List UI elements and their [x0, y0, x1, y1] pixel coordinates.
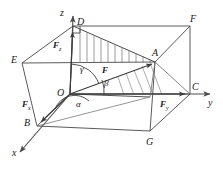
vertex-D-label: D: [77, 17, 84, 27]
force-diagram-figure: z y x D F E A C O B G Fz Fx Fy F γ β α: [0, 0, 223, 171]
vertex-C-label: C: [192, 82, 199, 92]
y-axis-label: y: [208, 98, 212, 108]
angle-beta-label: β: [104, 79, 108, 88]
angle-gamma-label: γ: [80, 65, 84, 74]
vertex-O-label: O: [57, 88, 64, 98]
diagram-canvas: [0, 0, 223, 171]
force-z-subscript: z: [59, 46, 61, 52]
force-resultant-label: F: [102, 66, 108, 77]
hatched-plane-DA: [73, 26, 155, 63]
vertex-F-top-label: F: [190, 14, 196, 24]
vertex-E-label: E: [11, 55, 17, 65]
force-x-subscript: x: [28, 105, 31, 111]
z-axis-label: z: [60, 8, 64, 18]
x-axis-label: x: [12, 148, 16, 158]
force-resultant-symbol: F: [102, 65, 108, 75]
force-y-subscript: y: [166, 105, 169, 111]
force-y-component-label: Fy: [160, 100, 169, 111]
coordinate-axes: [20, 16, 210, 152]
angle-alpha-label: α: [76, 100, 81, 109]
force-x-component-label: Fx: [22, 100, 31, 111]
force-z-component-label: Fz: [53, 41, 61, 52]
vertex-G-label: G: [146, 137, 153, 147]
vertex-B-label: B: [24, 118, 30, 128]
vertex-A-label: A: [152, 48, 158, 58]
